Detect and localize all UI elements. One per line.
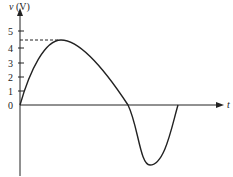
y-axis-label: v (V) bbox=[9, 1, 30, 13]
svg-text:0: 0 bbox=[8, 100, 13, 111]
x-axis-label: t bbox=[227, 99, 230, 110]
sine-wave-chart: v (V) t 5 4 3 2 1 0 bbox=[0, 0, 233, 177]
svg-text:3: 3 bbox=[8, 58, 13, 69]
svg-text:1: 1 bbox=[8, 86, 13, 97]
svg-text:5: 5 bbox=[8, 26, 13, 37]
svg-text:2: 2 bbox=[8, 72, 13, 83]
x-axis bbox=[20, 102, 224, 108]
y-axis bbox=[17, 8, 23, 176]
svg-text:4: 4 bbox=[8, 43, 13, 54]
sine-curve bbox=[20, 40, 178, 165]
